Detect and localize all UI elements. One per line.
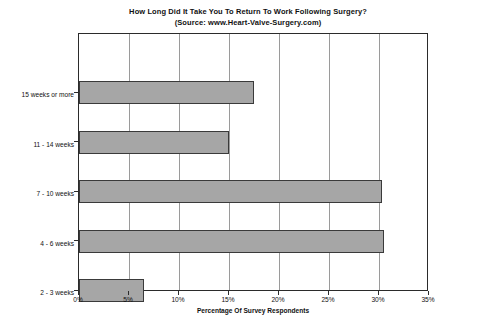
x-tick-2	[178, 291, 179, 295]
y-axis-label-0: 15 weeks or more	[0, 91, 74, 98]
x-tick-label-0: 0%	[73, 296, 83, 303]
x-axis-title: Percentage Of Survey Respondents	[78, 307, 428, 314]
x-tick-5	[328, 291, 329, 295]
y-axis-label-2: 7 - 10 weeks	[0, 190, 74, 197]
x-tick-7	[428, 291, 429, 295]
x-tick-6	[378, 291, 379, 295]
chart-title-block: How Long Did It Take You To Return To Wo…	[0, 6, 496, 28]
x-tick-label-1: 5%	[123, 296, 133, 303]
bar-4-6-weeks	[79, 230, 384, 253]
y-axis-category-labels: 15 weeks or more 11 - 14 weeks 7 - 10 we…	[0, 33, 74, 291]
x-tick-1	[128, 291, 129, 295]
x-tick-label-7: 35%	[421, 296, 434, 303]
bar-7-10-weeks	[79, 180, 382, 203]
chart-subtitle: (Source: www.Heart-Valve-Surgery.com)	[0, 17, 496, 28]
x-tick-3	[228, 291, 229, 295]
x-axis-ticks: 0% 5% 10% 15% 20% 25% 30% 35%	[78, 291, 428, 307]
y-axis-label-1: 11 - 14 weeks	[0, 141, 74, 148]
plot-area	[78, 33, 428, 291]
bar-11-14-weeks	[79, 131, 229, 154]
x-tick-label-3: 15%	[221, 296, 234, 303]
x-tick-4	[278, 291, 279, 295]
chart-title: How Long Did It Take You To Return To Wo…	[0, 6, 496, 17]
y-axis-label-4: 2 - 3 weeks	[0, 289, 74, 296]
x-tick-label-2: 10%	[171, 296, 184, 303]
x-tick-label-4: 20%	[271, 296, 284, 303]
x-tick-label-5: 25%	[321, 296, 334, 303]
chart-container: How Long Did It Take You To Return To Wo…	[0, 0, 496, 324]
bar-series	[79, 34, 427, 290]
x-tick-0	[78, 291, 79, 295]
y-axis-label-3: 4 - 6 weeks	[0, 240, 74, 247]
x-tick-label-6: 30%	[371, 296, 384, 303]
bar-15-weeks-or-more	[79, 81, 254, 104]
